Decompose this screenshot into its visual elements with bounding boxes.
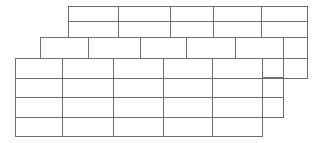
grid-cell: [114, 59, 164, 79]
grid-cell: [119, 7, 171, 22]
grid-cell: [262, 22, 308, 38]
grid-cell: [214, 7, 262, 22]
grid-cell: [214, 22, 262, 38]
grid-cell: [171, 7, 214, 22]
right-step-cell-middle: [284, 59, 308, 79]
grid-cell: [69, 22, 119, 38]
grid-cell: [213, 98, 263, 118]
grid-cell: [114, 98, 164, 118]
bottom-grid-layer: [16, 59, 263, 137]
grid-cell: [164, 98, 213, 118]
right-step-cell-upper: [284, 38, 308, 59]
grid-cell: [213, 79, 263, 98]
grid-cell: [114, 79, 164, 98]
grid-cell: [16, 118, 63, 137]
grid-cell: [262, 7, 308, 22]
middle-grid-layer: [41, 38, 284, 59]
grid-cell: [213, 59, 263, 79]
grid-cell: [63, 98, 114, 118]
grid-cell: [69, 7, 119, 22]
grid-cell: [63, 59, 114, 79]
top-grid-layer: [69, 7, 308, 38]
grid-cell: [187, 38, 236, 59]
grid-cell: [213, 118, 263, 137]
diagram-canvas: [0, 0, 327, 143]
grid-cell: [236, 38, 284, 59]
stacked-grid-diagram: [0, 0, 327, 143]
right-step-cell-bottom-outer: [263, 59, 284, 78]
grid-cell: [63, 118, 114, 137]
grid-cell: [141, 38, 187, 59]
grid-cell: [119, 22, 171, 38]
grid-cell: [164, 118, 213, 137]
grid-cell: [16, 79, 63, 98]
grid-cell: [114, 118, 164, 137]
right-step-cell-second: [263, 79, 284, 98]
grid-cell: [171, 22, 214, 38]
grid-cell: [89, 38, 141, 59]
grid-cell: [16, 98, 63, 118]
grid-cell: [41, 38, 89, 59]
right-step-cell-third: [263, 98, 284, 118]
grid-cell: [164, 59, 213, 79]
grid-cell: [164, 79, 213, 98]
grid-cell: [63, 79, 114, 98]
grid-cell: [16, 59, 63, 79]
